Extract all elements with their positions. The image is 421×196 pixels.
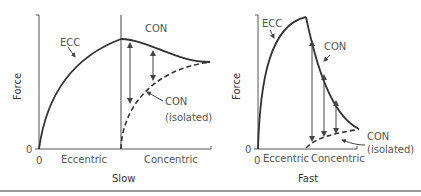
- y-axis-label: Force: [12, 73, 23, 100]
- stretch-shortening-diagram: ECC CON CON (isolated) 0 0 Eccentric Con…: [0, 0, 421, 196]
- ecc-label: ECC: [60, 37, 80, 48]
- panel-slow: ECC CON CON (isolated) 0 0 Eccentric Con…: [12, 15, 212, 184]
- con-pointer: [324, 55, 330, 61]
- x-zero-label: 0: [36, 155, 42, 166]
- con-isolated-curve: [306, 129, 359, 148]
- y-axis-label: Force: [231, 73, 242, 100]
- x-zero-label: 0: [254, 155, 260, 166]
- panel-title: Fast: [298, 173, 318, 184]
- con-label: CON: [324, 41, 346, 52]
- y-zero-label: 0: [26, 144, 32, 155]
- panel-title: Slow: [112, 173, 135, 184]
- concentric-label: Concentric: [311, 153, 365, 164]
- con-isolated-sublabel: (isolated): [367, 144, 414, 155]
- bottom-divider: [0, 190, 421, 192]
- eccentric-label: Eccentric: [263, 153, 309, 164]
- ecc-curve: [258, 17, 306, 149]
- y-zero-label: 0: [245, 144, 251, 155]
- con-isolated-pointer: [147, 92, 163, 101]
- con-isolated-pointer: [342, 140, 365, 145]
- ecc-pointer: [270, 30, 274, 38]
- ecc-curve: [39, 39, 121, 149]
- ecc-pointer: [68, 47, 75, 57]
- con-curve: [306, 17, 359, 129]
- ecc-label: ECC: [262, 18, 282, 29]
- con-isolated-label: CON: [367, 131, 389, 142]
- eccentric-label: Eccentric: [61, 154, 107, 165]
- con-label: CON: [145, 23, 167, 34]
- concentric-label: Concentric: [144, 154, 198, 165]
- con-curve: [121, 39, 210, 62]
- panel-fast: ECC CON CON (isolated) 0 0 Eccentric Con…: [231, 15, 414, 184]
- con-isolated-label: CON: [165, 96, 187, 107]
- con-isolated-sublabel: (isolated): [165, 112, 212, 123]
